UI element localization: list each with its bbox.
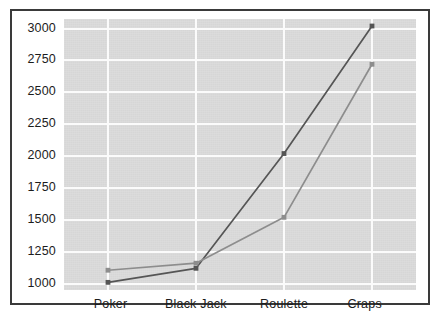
- y-axis-tick-label: 1500: [12, 213, 56, 226]
- series-line: [108, 64, 372, 270]
- y-axis-tick-label: 1250: [12, 245, 56, 258]
- x-axis-tick-label: Black Jack: [165, 297, 227, 311]
- y-axis-tick-label: 3000: [12, 22, 56, 35]
- series-data-point-marker: [106, 268, 111, 273]
- x-axis-tick-label: Roulette: [260, 297, 308, 311]
- chart-plot-wrapper: 100012501500175020002250250027503000Poke…: [12, 11, 432, 307]
- x-axis-tick-label: Craps: [348, 297, 382, 311]
- y-axis-tick-label: 2000: [12, 149, 56, 162]
- chart-series-layer: [64, 19, 416, 290]
- y-axis-tick-label: 2500: [12, 85, 56, 98]
- series-data-point-marker: [370, 24, 375, 29]
- series-data-point-marker: [282, 151, 287, 156]
- series-line: [108, 26, 372, 282]
- y-axis-tick-label: 1750: [12, 181, 56, 194]
- y-axis-tick-label: 2750: [12, 53, 56, 66]
- chart-figure-frame: 100012501500175020002250250027503000Poke…: [10, 9, 430, 305]
- series-data-point-marker: [194, 266, 199, 271]
- series-data-point-marker: [194, 261, 199, 266]
- series-data-point-marker: [370, 62, 375, 67]
- series-data-point-marker: [106, 280, 111, 285]
- x-axis-tick-label: Poker: [94, 297, 128, 311]
- y-axis-tick-label: 1000: [12, 277, 56, 290]
- series-data-point-marker: [282, 215, 287, 220]
- y-axis-tick-label: 2250: [12, 117, 56, 130]
